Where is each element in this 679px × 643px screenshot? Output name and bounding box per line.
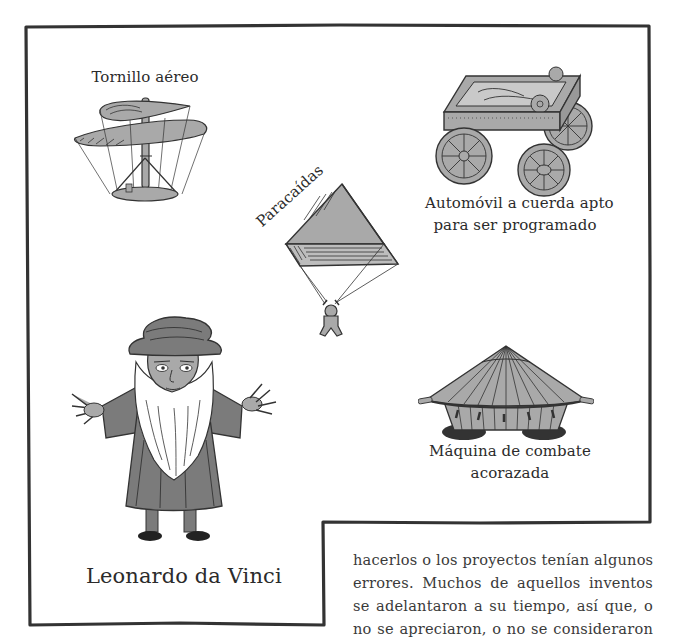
- paragraph-line-1: hacerlos o los proyectos tenían algunos: [353, 548, 653, 571]
- paragraph-line-3: se adelantaron a su tiempo, así que, o: [353, 594, 653, 617]
- tank-label: Máquina de combate acorazada: [420, 440, 600, 484]
- paragraph-line-2: errores. Muchos de aquellos inventos: [353, 571, 653, 594]
- self-propelled-cart-icon: [428, 66, 608, 198]
- leonardo-label: Leonardo da Vinci: [86, 563, 262, 589]
- cart-label-line2: para ser programado: [425, 214, 605, 236]
- body-paragraph: hacerlos o los proyectos tenían algunos …: [353, 548, 653, 640]
- aerial-screw-icon: [70, 96, 220, 206]
- cart-label: Automóvil a cuerda apto para ser program…: [425, 192, 605, 236]
- paragraph-line-4: no se apreciaron, o no se consideraron: [353, 617, 653, 640]
- leonardo-portrait-icon: [66, 310, 280, 546]
- armored-tank-icon: [418, 344, 594, 442]
- cart-label-line1: Automóvil a cuerda apto: [425, 192, 605, 214]
- tank-label-line1: Máquina de combate: [420, 440, 600, 462]
- tank-label-line2: acorazada: [420, 462, 600, 484]
- parachute-icon: [280, 180, 400, 340]
- helicopter-label: Tornillo aéreo: [90, 66, 200, 88]
